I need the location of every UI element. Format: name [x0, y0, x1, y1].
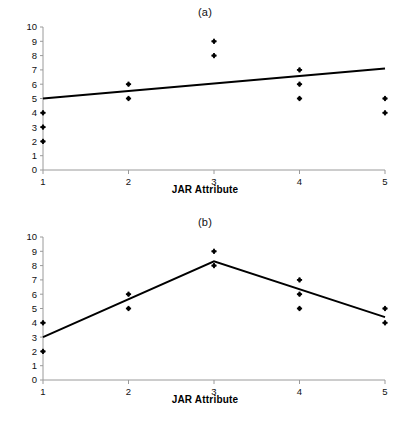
panel-b-y-tick-label: 0: [32, 374, 37, 385]
panel-b-data-point: [40, 349, 45, 354]
panel-a-data-point: [40, 125, 45, 130]
panel-b-y-tick-label: 2: [32, 346, 37, 357]
panel-b-y-tick-label: 5: [32, 303, 37, 314]
panel-a-x-tick-label: 5: [382, 176, 387, 187]
panel-a-y-tick-label: 3: [32, 122, 37, 133]
panel-a-y-tick-label: 0: [32, 164, 37, 175]
panel-b-data-point: [382, 320, 387, 325]
panel-a-y-tick-label: 1: [32, 150, 37, 161]
panel-a-data-point: [40, 110, 45, 115]
panel-b-y-tick-label: 4: [32, 317, 37, 328]
panel-a-y-tick-label: 10: [26, 21, 37, 32]
panel-a-y-tick-label: 2: [32, 136, 37, 147]
panel-b-y-tick-label: 7: [32, 274, 37, 285]
panel-a-y-tick-label: 7: [32, 64, 37, 75]
panel-a-data-point: [211, 53, 216, 58]
panel-a-x-tick-label: 1: [40, 176, 45, 187]
panel-b-data-point: [211, 263, 216, 268]
panel-a-data-point: [211, 39, 216, 44]
panel-b: (b) Overall Liking JAR Attribute 0123456…: [0, 210, 410, 422]
panel-b-data-point: [126, 306, 131, 311]
panel-a-y-tick-label: 5: [32, 93, 37, 104]
panel-b-x-tick-label: 2: [126, 386, 131, 397]
panel-a-y-tick-label: 8: [32, 50, 37, 61]
panel-a-data-point: [297, 67, 302, 72]
panel-a-data-point: [382, 110, 387, 115]
panel-a-data-point: [126, 96, 131, 101]
panel-a: (a) Overall Liking JAR Attribute 0123456…: [0, 0, 410, 212]
panel-a-data-point: [126, 82, 131, 87]
panel-b-data-point: [382, 306, 387, 311]
panel-b-y-tick-label: 10: [26, 231, 37, 242]
panel-a-x-tick-label: 4: [297, 176, 302, 187]
panel-b-y-tick-label: 9: [32, 246, 37, 257]
panel-b-x-tick-label: 5: [382, 386, 387, 397]
panel-b-x-tick-label: 4: [297, 386, 302, 397]
panel-b-fit-line: [43, 261, 385, 337]
figure-two-panel-scatter: (a) Overall Liking JAR Attribute 0123456…: [0, 0, 410, 425]
panel-b-data-point: [297, 277, 302, 282]
panel-b-data-point: [211, 249, 216, 254]
panel-b-y-tick-label: 6: [32, 289, 37, 300]
panel-b-y-tick-label: 1: [32, 360, 37, 371]
panel-b-y-tick-label: 3: [32, 332, 37, 343]
panel-b-plot-area: 01234567891012345: [0, 210, 410, 422]
panel-a-x-tick-label: 2: [126, 176, 131, 187]
panel-b-x-tick-label: 1: [40, 386, 45, 397]
panel-a-y-tick-label: 6: [32, 79, 37, 90]
panel-a-y-tick-label: 4: [32, 107, 37, 118]
panel-a-data-point: [40, 139, 45, 144]
panel-a-x-tick-label: 3: [211, 176, 216, 187]
panel-a-y-tick-label: 9: [32, 36, 37, 47]
panel-a-fit-line: [43, 68, 385, 98]
panel-a-plot-area: 01234567891012345: [0, 0, 410, 212]
panel-b-data-point: [126, 292, 131, 297]
panel-a-data-point: [297, 96, 302, 101]
panel-b-data-point: [40, 320, 45, 325]
panel-b-data-point: [297, 292, 302, 297]
panel-b-data-point: [297, 306, 302, 311]
panel-a-data-point: [297, 82, 302, 87]
panel-b-y-tick-label: 8: [32, 260, 37, 271]
panel-a-data-point: [382, 96, 387, 101]
panel-b-x-tick-label: 3: [211, 386, 216, 397]
